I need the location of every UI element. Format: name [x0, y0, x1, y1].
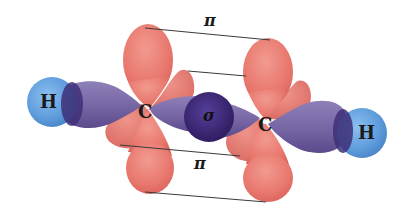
pi-line-top-inner [188, 71, 246, 76]
atom-label-h-left: H [40, 93, 57, 111]
pi-bond-label-top: π [204, 13, 216, 29]
pi-bond-label-bottom: π [194, 156, 206, 172]
atom-label-h-right: H [358, 124, 375, 142]
sigma-bond-label: σ [203, 108, 215, 124]
atom-label-c-left: C [138, 103, 152, 121]
p-orbital-lower-left [126, 142, 174, 194]
pi-line-bottom-outer [145, 192, 266, 202]
p-orbital-lower-right [243, 154, 293, 202]
acetylene-orbital-diagram: H C C H σ π π [0, 0, 408, 212]
overlap-left [61, 82, 83, 126]
overlap-right [333, 109, 353, 153]
atom-label-c-right: C [258, 116, 272, 134]
